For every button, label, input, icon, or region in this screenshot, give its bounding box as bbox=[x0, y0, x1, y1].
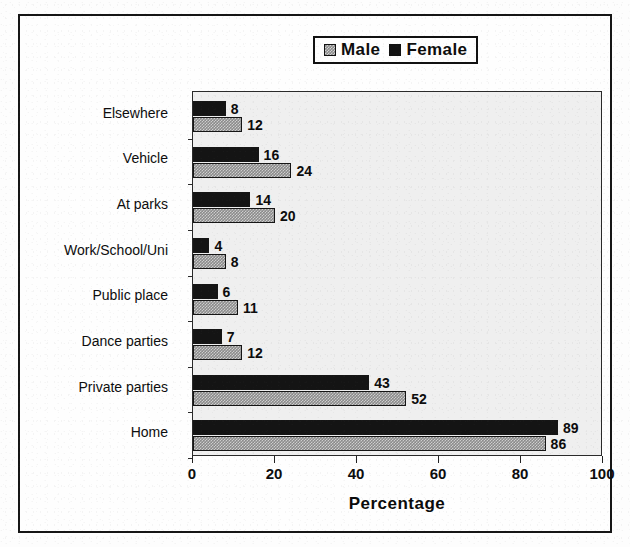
bar-male bbox=[193, 163, 291, 178]
bar-group-public-place: 611 bbox=[193, 276, 601, 322]
bar-value-male: 12 bbox=[247, 346, 263, 360]
bar-value-male: 52 bbox=[411, 392, 427, 406]
legend-swatch-male-icon bbox=[324, 44, 336, 56]
legend-label-male: Male bbox=[341, 41, 380, 58]
bar-value-female: 16 bbox=[264, 148, 280, 162]
y-axis-tick bbox=[188, 139, 193, 140]
bar-male bbox=[193, 436, 546, 451]
category-label-home: Home bbox=[20, 425, 168, 439]
bar-male bbox=[193, 208, 275, 223]
x-axis-tick bbox=[274, 456, 275, 463]
bar-value-male: 12 bbox=[247, 118, 263, 132]
bar-group-vehicle: 1624 bbox=[193, 139, 601, 185]
bar-group-private-parties: 4352 bbox=[193, 367, 601, 413]
x-axis-tick bbox=[356, 456, 357, 463]
bar-value-male: 20 bbox=[280, 209, 296, 223]
x-axis-tick bbox=[438, 456, 439, 463]
category-label-dance-parties: Dance parties bbox=[20, 334, 168, 348]
bar-value-male: 24 bbox=[296, 164, 312, 178]
x-axis-tick bbox=[520, 456, 521, 463]
bar-value-female: 43 bbox=[374, 376, 390, 390]
x-axis-tick bbox=[192, 456, 193, 463]
bar-male bbox=[193, 391, 406, 406]
bar-value-female: 6 bbox=[223, 285, 231, 299]
bar-female bbox=[193, 375, 369, 390]
legend-swatch-female-icon bbox=[389, 44, 401, 56]
x-axis-tick-label: 20 bbox=[266, 466, 283, 481]
bar-female bbox=[193, 101, 226, 116]
bar-female bbox=[193, 238, 209, 253]
bar-male bbox=[193, 254, 226, 269]
bar-female bbox=[193, 147, 259, 162]
bar-value-female: 7 bbox=[227, 330, 235, 344]
x-axis: 020406080100 bbox=[192, 456, 602, 496]
category-label-public-place: Public place bbox=[20, 288, 168, 302]
legend-entry-male: Male bbox=[324, 41, 380, 58]
x-axis-tick-label: 40 bbox=[348, 466, 365, 481]
chart-outer-frame: Male Female 812162414204861171243528986 … bbox=[18, 14, 612, 533]
plot-area: 812162414204861171243528986 bbox=[192, 91, 602, 456]
bar-value-female: 89 bbox=[563, 421, 579, 435]
bar-value-female: 14 bbox=[255, 193, 271, 207]
bar-group-at-parks: 1420 bbox=[193, 184, 601, 230]
legend-entry-female: Female bbox=[389, 41, 467, 58]
bar-group-home: 8986 bbox=[193, 412, 601, 458]
category-label-elsewhere: Elsewhere bbox=[20, 106, 168, 120]
category-label-work-school-uni: Work/School/Uni bbox=[20, 243, 168, 257]
x-axis-title: Percentage bbox=[192, 494, 602, 514]
category-label-vehicle: Vehicle bbox=[20, 151, 168, 165]
y-axis-tick bbox=[188, 276, 193, 277]
bar-group-work-school-uni: 48 bbox=[193, 230, 601, 276]
chart-legend: Male Female bbox=[313, 36, 478, 64]
bar-male bbox=[193, 345, 242, 360]
bar-group-elsewhere: 812 bbox=[193, 93, 601, 139]
y-axis-tick bbox=[188, 230, 193, 231]
bar-male bbox=[193, 300, 238, 315]
category-label-private-parties: Private parties bbox=[20, 380, 168, 394]
x-axis-tick bbox=[602, 456, 603, 463]
bar-value-female: 4 bbox=[214, 239, 222, 253]
x-axis-tick-label: 80 bbox=[512, 466, 529, 481]
bar-value-male: 8 bbox=[231, 255, 239, 269]
bar-value-male: 86 bbox=[551, 437, 567, 451]
bar-female bbox=[193, 329, 222, 344]
y-axis-tick bbox=[188, 184, 193, 185]
bar-female bbox=[193, 192, 250, 207]
y-axis-tick bbox=[188, 367, 193, 368]
x-axis-tick-label: 100 bbox=[589, 466, 614, 481]
category-label-at-parks: At parks bbox=[20, 197, 168, 211]
plot-inner: 812162414204861171243528986 bbox=[193, 92, 601, 455]
legend-label-female: Female bbox=[406, 41, 467, 58]
x-axis-tick-label: 0 bbox=[188, 466, 196, 481]
bar-male bbox=[193, 117, 242, 132]
bar-female bbox=[193, 420, 558, 435]
x-axis-tick-label: 60 bbox=[430, 466, 447, 481]
bar-value-female: 8 bbox=[231, 102, 239, 116]
y-axis-tick bbox=[188, 412, 193, 413]
bar-female bbox=[193, 284, 218, 299]
chart-screenshot: Male Female 812162414204861171243528986 … bbox=[0, 0, 630, 547]
y-axis-tick bbox=[188, 321, 193, 322]
bar-value-male: 11 bbox=[243, 301, 258, 315]
bar-group-dance-parties: 712 bbox=[193, 321, 601, 367]
